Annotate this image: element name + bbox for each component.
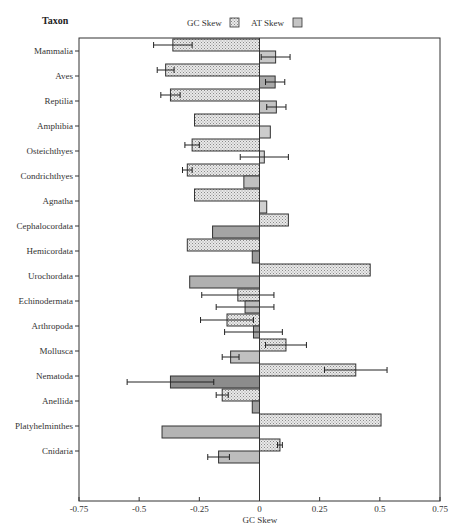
y-axis-title: Taxon (42, 15, 69, 26)
x-tick-label: -0.75 (70, 504, 89, 514)
gc-bar-condrichthyes (187, 164, 259, 176)
x-tick-label: 0 (257, 504, 262, 514)
gc-bar-reptilia (170, 89, 259, 101)
category-label: Hemicordata (27, 246, 73, 256)
category-label: Agnatha (43, 196, 74, 206)
category-label: Nematoda (36, 371, 73, 381)
category-label: Mollusca (40, 346, 74, 356)
category-label: Aves (55, 71, 73, 81)
x-tick-label: 0.5 (374, 504, 386, 514)
category-label: Condrichthyes (21, 171, 74, 181)
legend-swatch-at (293, 18, 302, 27)
at-bar-cephalocordata (213, 226, 260, 238)
x-tick-label: 0.25 (312, 504, 328, 514)
gc-bar-hemicordata (187, 239, 259, 251)
category-label: Echinodermata (19, 296, 73, 306)
category-label: Amphibia (37, 121, 73, 131)
gc-bar-platyhelminthes (260, 414, 382, 426)
category-label: Platyhelminthes (15, 421, 73, 431)
category-label: Urochordata (28, 271, 73, 281)
at-bar-hemicordata (252, 251, 259, 263)
gc-bar-osteichthyes (192, 139, 259, 151)
gc-bar-agnatha (195, 189, 260, 201)
at-bar-condrichthyes (244, 176, 260, 188)
category-label: Mammalia (34, 46, 73, 56)
category-label: Reptilia (45, 96, 74, 106)
legend: GC Skew AT Skew (187, 18, 302, 28)
x-axis: -0.75-0.5-0.2500.250.50.75 (70, 497, 449, 514)
category-label: Cnidaria (42, 446, 73, 456)
at-bar-agnatha (260, 201, 267, 213)
at-bar-urochordata (190, 276, 260, 288)
category-label: Anellida (42, 396, 73, 406)
gc-at-skew-chart: Taxon GC Skew AT Skew MammaliaAvesReptil… (0, 0, 459, 532)
gc-bar-aves (166, 64, 260, 76)
at-bar-anellida (252, 401, 259, 413)
gc-bar-cephalocordata (260, 214, 289, 226)
legend-label-gc: GC Skew (187, 18, 222, 28)
x-tick-label: 0.75 (432, 504, 448, 514)
category-label: Arthropoda (32, 321, 74, 331)
legend-swatch-gc (230, 18, 239, 27)
category-label: Cephalocordata (17, 221, 73, 231)
at-bar-amphibia (260, 126, 271, 138)
gc-bar-amphibia (195, 114, 260, 126)
bars-group (127, 38, 387, 501)
x-axis-title: GC Skew (243, 515, 278, 525)
legend-label-at: AT Skew (251, 18, 285, 28)
y-axis: MammaliaAvesReptiliaAmphibiaOsteichthyes… (15, 46, 79, 456)
x-tick-label: -0.5 (132, 504, 147, 514)
gc-bar-cnidaria (260, 439, 280, 451)
at-bar-platyhelminthes (162, 426, 259, 438)
gc-bar-urochordata (260, 264, 371, 276)
x-tick-label: -0.25 (190, 504, 209, 514)
category-label: Osteichthyes (27, 146, 74, 156)
